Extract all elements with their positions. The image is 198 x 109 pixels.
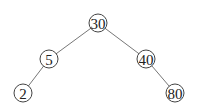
node-label: 2 [19, 86, 27, 102]
tree-diagram: 30 5 40 2 80 [0, 0, 198, 109]
node-label: 40 [139, 52, 154, 68]
node-40: 40 [137, 50, 155, 68]
node-label: 80 [168, 86, 183, 102]
node-label: 5 [45, 52, 53, 68]
node-2: 2 [14, 84, 32, 102]
node-label: 30 [91, 16, 106, 32]
node-80: 80 [166, 84, 184, 102]
node-30: 30 [89, 14, 107, 32]
node-5: 5 [40, 50, 58, 68]
